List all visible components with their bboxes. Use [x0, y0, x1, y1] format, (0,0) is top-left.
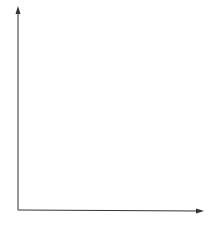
frequency-hopping-diagram [0, 0, 213, 227]
x-axis [18, 210, 200, 211]
y-axis-arrow-icon [16, 6, 21, 14]
x-axis-arrow-icon [196, 209, 204, 214]
